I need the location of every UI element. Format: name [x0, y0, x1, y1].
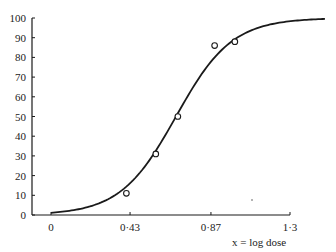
y-tick-label: 70	[15, 71, 27, 83]
y-tick-label: 90	[15, 32, 27, 44]
scan-speck	[251, 199, 253, 201]
data-point	[212, 43, 218, 49]
y-tick-label: 40	[15, 130, 27, 142]
x-axis: 00·430·871·3	[32, 212, 298, 233]
y-tick-label: 20	[15, 170, 27, 182]
data-point	[175, 114, 181, 120]
x-axis-label: x = log dose	[232, 236, 286, 248]
y-tick-label: 60	[15, 91, 27, 103]
y-axis: 0102030405060708090100	[10, 12, 36, 221]
y-tick-label: 80	[15, 51, 27, 63]
y-tick-label: 100	[10, 12, 27, 24]
y-tick-label: 30	[15, 150, 27, 162]
x-tick-label: 0·87	[201, 221, 222, 233]
y-tick-label: 10	[15, 189, 27, 201]
data-point	[153, 151, 159, 157]
y-tick-label: 50	[15, 111, 27, 123]
x-tick-label: 0·43	[120, 221, 141, 233]
dose-response-chart: 0102030405060708090100 00·430·871·3 x = …	[0, 0, 336, 252]
x-tick-label: 1·3	[283, 221, 298, 233]
fitted-logistic-curve	[51, 19, 325, 213]
y-tick-label: 0	[21, 209, 27, 221]
x-tick-label: 0	[48, 221, 54, 233]
data-point	[124, 191, 130, 197]
data-point	[232, 39, 238, 45]
